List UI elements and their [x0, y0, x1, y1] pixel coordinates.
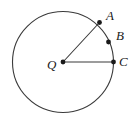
radius-segment-QA: [63, 23, 100, 63]
geometry-figure: A B C Q: [0, 0, 136, 128]
point-label-A: A: [106, 9, 114, 22]
point-dot-A: [97, 20, 102, 25]
point-dot-Q: [61, 60, 66, 65]
point-label-C: C: [119, 55, 128, 68]
point-dot-C: [111, 60, 116, 65]
point-label-Q: Q: [47, 58, 56, 71]
figure-canvas: [0, 0, 136, 128]
point-dot-B: [106, 40, 111, 45]
point-label-B: B: [116, 29, 124, 42]
